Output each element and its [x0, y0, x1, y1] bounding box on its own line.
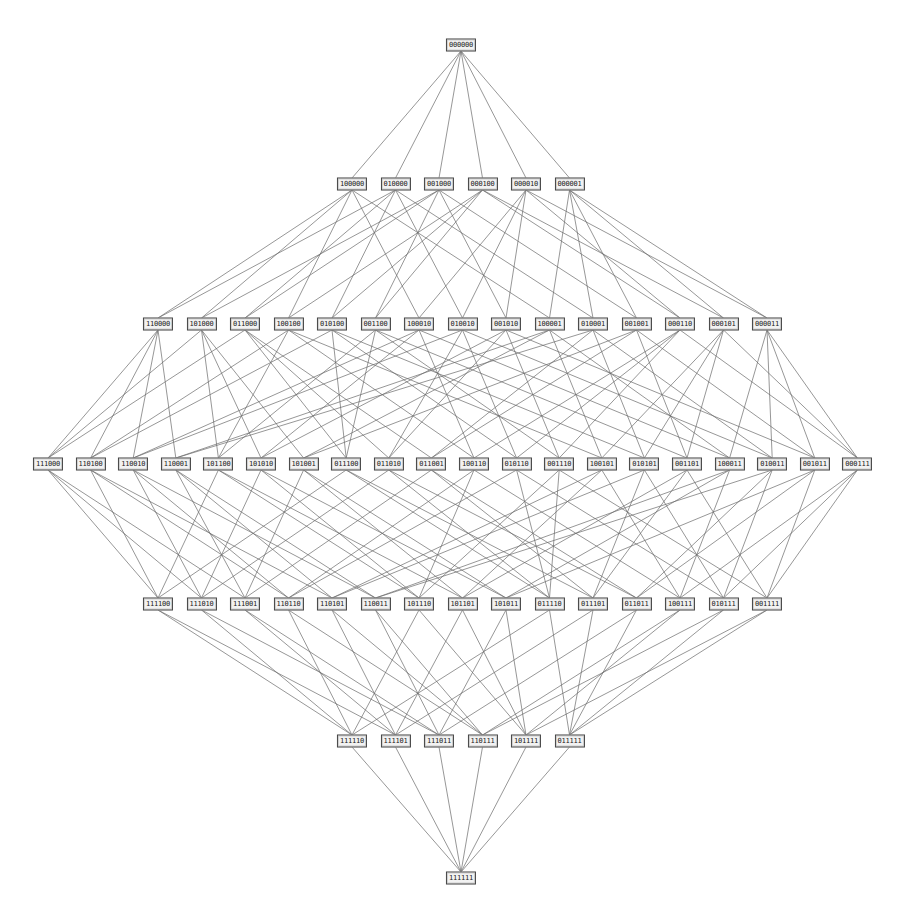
node-110111: 110111	[467, 735, 497, 748]
node-001100: 001100	[360, 318, 390, 331]
node-111000: 111000	[33, 458, 63, 471]
edge-110010-110110	[133, 470, 288, 598]
node-111111: 111111	[446, 872, 476, 885]
node-110000: 110000	[143, 318, 173, 331]
node-100101: 100101	[587, 458, 617, 471]
edge-000100-010100	[332, 190, 483, 318]
edge-000111-010111	[724, 470, 858, 598]
edge-101110-111110	[352, 610, 419, 735]
node-010001: 010001	[578, 318, 608, 331]
edge-110000-110010	[133, 330, 158, 458]
node-001001: 001001	[621, 318, 651, 331]
node-111100: 111100	[143, 598, 173, 611]
edge-010001-010101	[593, 330, 644, 458]
edge-110111-111111	[461, 747, 483, 872]
node-101000: 101000	[186, 318, 216, 331]
edge-000001-000011	[570, 190, 768, 318]
node-111101: 111101	[380, 735, 410, 748]
node-001010: 001010	[491, 318, 521, 331]
edge-111101-111111	[396, 747, 462, 872]
node-111010: 111010	[186, 598, 216, 611]
edge-110000-110001	[158, 330, 176, 458]
node-010111: 010111	[708, 598, 738, 611]
node-000000: 000000	[446, 39, 476, 52]
edge-101010-101110	[261, 470, 419, 598]
edge-011011-111011	[439, 610, 637, 735]
edge-001100-011100	[346, 330, 375, 458]
edge-111011-111111	[439, 747, 461, 872]
edge-100100-110100	[91, 330, 289, 458]
edge-000010-001010	[506, 190, 526, 318]
edge-000000-000001	[461, 51, 570, 178]
edge-000000-000010	[461, 51, 526, 178]
node-001110: 001110	[544, 458, 574, 471]
node-000101: 000101	[708, 318, 738, 331]
edge-000011-000111	[767, 330, 857, 458]
node-011011: 011011	[621, 598, 651, 611]
node-011100: 011100	[331, 458, 361, 471]
node-011001: 011001	[416, 458, 446, 471]
node-110110: 110110	[273, 598, 303, 611]
edge-000101-000111	[724, 330, 858, 458]
node-100000: 100000	[337, 178, 367, 191]
node-010110: 010110	[502, 458, 532, 471]
edge-110100-111100	[91, 470, 158, 598]
edge-100001-100101	[550, 330, 602, 458]
node-001111: 001111	[752, 598, 782, 611]
node-101100: 101100	[203, 458, 233, 471]
edge-001000-001001	[439, 190, 637, 318]
edge-101011-101111	[506, 610, 526, 735]
node-110010: 110010	[118, 458, 148, 471]
node-111110: 111110	[337, 735, 367, 748]
edge-001101-001111	[687, 470, 767, 598]
edge-111010-111110	[202, 610, 353, 735]
node-011110: 011110	[534, 598, 564, 611]
edge-011100-011110	[346, 470, 549, 598]
edge-111001-111011	[245, 610, 439, 735]
edge-101011-111011	[439, 610, 506, 735]
edge-111000-111001	[48, 470, 245, 598]
edge-010011-110011	[376, 470, 773, 598]
edge-000000-100000	[352, 51, 461, 178]
edge-011110-111110	[352, 610, 550, 735]
edge-110000-111000	[48, 330, 158, 458]
edge-001000-011000	[245, 190, 439, 318]
node-000011: 000011	[752, 318, 782, 331]
edge-100101-100111	[602, 470, 680, 598]
node-111001: 111001	[230, 598, 260, 611]
edge-001001-011001	[431, 330, 636, 458]
node-101001: 101001	[289, 458, 319, 471]
edge-111000-111100	[48, 470, 158, 598]
edge-layer	[0, 0, 921, 911]
node-110011: 110011	[360, 598, 390, 611]
edge-000100-100100	[289, 190, 483, 318]
edge-010011-011011	[637, 470, 773, 598]
edge-000000-010000	[396, 51, 462, 178]
node-000111: 000111	[842, 458, 872, 471]
edge-011110-011111	[550, 610, 570, 735]
edge-101001-101011	[304, 470, 506, 598]
edge-100100-100101	[289, 330, 602, 458]
edge-100000-110000	[158, 190, 352, 318]
node-101111: 101111	[511, 735, 541, 748]
edge-010101-110101	[332, 470, 644, 598]
edge-100101-110101	[332, 470, 602, 598]
edge-000111-001111	[767, 470, 857, 598]
node-111011: 111011	[424, 735, 454, 748]
edge-010110-010111	[517, 470, 724, 598]
edge-111110-111111	[352, 747, 461, 872]
edge-100000-100001	[352, 190, 550, 318]
node-110101: 110101	[317, 598, 347, 611]
edge-000011-001011	[767, 330, 815, 458]
edge-100010-110010	[133, 330, 419, 458]
edge-000001-001001	[570, 190, 637, 318]
edge-010110-011110	[517, 470, 550, 598]
edge-010100-011100	[332, 330, 346, 458]
edge-000100-001100	[376, 190, 483, 318]
edge-100110-100111	[474, 470, 680, 598]
node-010000: 010000	[380, 178, 410, 191]
node-100110: 100110	[459, 458, 489, 471]
node-000100: 000100	[467, 178, 497, 191]
edge-011001-011011	[431, 470, 636, 598]
node-100111: 100111	[665, 598, 695, 611]
